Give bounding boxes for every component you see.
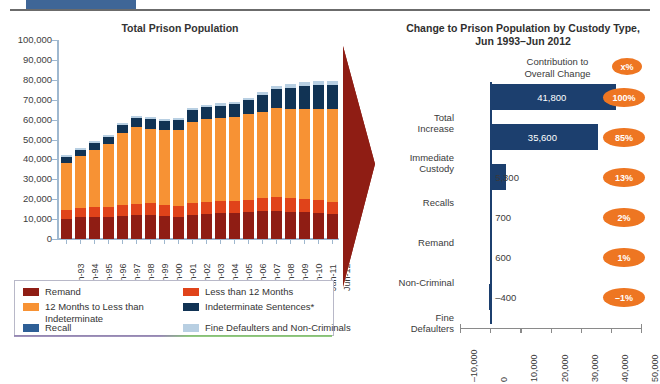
contribution-caption-line2: Overall Change <box>510 68 605 80</box>
left-chart-y-label: 70,000 <box>23 94 52 105</box>
contribution-badge: 100% <box>603 88 645 107</box>
legend-swatch <box>183 303 199 311</box>
left-chart-bar-segment <box>327 214 338 239</box>
left-chart-bar-segment <box>215 106 226 119</box>
table-row <box>131 116 142 239</box>
right-chart-x-label: 30,000 <box>590 354 600 382</box>
left-chart-bar-segment <box>187 215 198 239</box>
left-chart-bar-segment <box>75 156 86 208</box>
right-chart-x-label: 0 <box>499 377 509 382</box>
left-chart-bar-segment <box>271 211 282 239</box>
right-chart-x-tick <box>520 328 521 333</box>
left-chart-bar-segment <box>201 214 212 239</box>
legend-swatch <box>183 324 199 332</box>
legend-swatch <box>183 288 199 296</box>
right-chart-category-line: Immediate <box>410 152 454 163</box>
table-row <box>229 102 240 239</box>
left-chart-bar-segment <box>89 207 100 216</box>
left-chart-bar-segment <box>243 100 254 114</box>
left-chart-bar-segment <box>187 122 198 204</box>
right-chart-category-line: Non-Criminal <box>399 277 454 288</box>
left-chart-bar-segment <box>173 130 184 206</box>
left-chart-bar-segment <box>201 119 212 202</box>
contribution-badge: 2% <box>603 208 645 227</box>
legend-label: Recall <box>45 322 145 334</box>
left-chart-bar-segment <box>229 201 240 213</box>
right-chart-category-labels: TotalIncreaseImmediateCustodyRecallsRema… <box>390 82 454 322</box>
right-chart-category-line: Remand <box>418 237 454 248</box>
left-chart-bar-segment <box>285 212 296 239</box>
left-chart-y-tick <box>52 159 57 160</box>
left-chart-bar-segment <box>257 211 268 239</box>
legend-underline <box>14 335 332 337</box>
right-chart-bar-value: 700 <box>495 212 511 223</box>
left-chart-bar-segment <box>285 198 296 211</box>
left-chart-y-tick <box>52 219 57 220</box>
left-chart-bar-segment <box>313 85 324 109</box>
contribution-caption: Contribution to Overall Change <box>510 56 605 79</box>
left-chart-bar-segment <box>173 217 184 239</box>
right-chart-x-tick <box>460 328 461 333</box>
table-row <box>215 103 226 239</box>
left-chart-bar-segment <box>145 203 156 214</box>
left-chart-bar-segment <box>131 215 142 239</box>
left-chart-bar-segment <box>75 208 86 217</box>
banner-divider <box>10 9 650 11</box>
left-chart-bar-segment <box>159 121 170 131</box>
contribution-badge: 1% <box>603 248 645 267</box>
banner-red-text <box>330 0 650 5</box>
left-chart-bar-segment <box>327 109 338 202</box>
change-by-custody-type-chart: Contribution to Overall Change x% TotalI… <box>390 56 657 384</box>
left-chart-y-tick <box>52 120 57 121</box>
left-chart-bar-segment <box>215 118 226 201</box>
left-chart-bar-segment <box>187 110 198 121</box>
left-chart-bar-segment <box>89 143 100 150</box>
right-chart-title: Change to Prison Population by Custody T… <box>392 22 654 48</box>
left-chart-bar-segment <box>61 210 72 219</box>
left-chart-bar-segment <box>89 217 100 239</box>
legend-swatch <box>23 288 39 296</box>
right-chart-x-label: 20,000 <box>560 354 570 382</box>
left-chart-y-label: 40,000 <box>23 153 52 164</box>
right-chart-category-line: Total <box>418 112 454 123</box>
left-chart-y-label: 100,000 <box>18 34 52 45</box>
right-chart-bar-value: 600 <box>495 252 511 263</box>
left-chart-bar-segment <box>89 150 100 208</box>
left-chart-bar-segment <box>117 216 128 239</box>
left-chart-bar-segment <box>75 217 86 239</box>
left-chart-bar-segment <box>243 200 254 212</box>
left-chart-bar-segment <box>313 213 324 239</box>
left-chart-bar-segment <box>117 125 128 133</box>
table-row <box>145 117 156 239</box>
left-chart-bar-segment <box>61 163 72 210</box>
left-chart-bar-segment <box>271 108 282 198</box>
left-chart-y-label: 60,000 <box>23 114 52 125</box>
right-chart-category-label: ImmediateCustody <box>410 152 454 174</box>
right-chart-category-label: Recalls <box>423 197 454 208</box>
right-chart-category-line: Recalls <box>423 197 454 208</box>
right-chart-category-label: Remand <box>418 237 454 248</box>
table-row <box>89 141 100 239</box>
right-chart-bar-value: –400 <box>495 292 516 303</box>
left-chart-bar-segment <box>271 197 282 210</box>
right-chart-zero-line <box>490 82 492 324</box>
right-chart-x-tick <box>641 328 642 333</box>
left-chart-y-tick <box>52 239 57 240</box>
left-chart-y-tick <box>52 140 57 141</box>
right-chart-bar-value: 35,600 <box>528 132 557 143</box>
left-chart-bar-segment <box>103 144 114 207</box>
left-chart-y-label: 10,000 <box>23 213 52 224</box>
right-chart-x-label: 50,000 <box>650 354 660 382</box>
left-chart-y-tick <box>52 100 57 101</box>
left-chart-bar-segment <box>271 89 282 108</box>
left-chart-y-axis: 100,00090,00080,00070,00060,00050,00040,… <box>0 38 56 240</box>
left-chart-y-label: 30,000 <box>23 173 52 184</box>
table-row <box>201 105 212 239</box>
right-chart-x-tick <box>611 328 612 333</box>
left-chart-y-tick <box>52 199 57 200</box>
left-chart-y-tick <box>52 60 57 61</box>
banner-blue-block <box>26 0 136 9</box>
left-chart-bar-segment <box>201 107 212 119</box>
contribution-caption-line1: Contribution to <box>510 56 605 68</box>
right-chart-bar-value: 5,300 <box>495 172 519 183</box>
